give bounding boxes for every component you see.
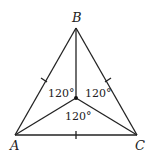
angle-label-apb: 120° [48,87,75,100]
vertex-label-c: C [135,138,145,153]
angle-label-apc: 120° [65,110,92,123]
triangle-diagram: B A C 120° 120° 120° [0,0,152,158]
vertex-label-a: A [9,138,19,153]
interior-point [74,96,78,100]
vertex-label-b: B [71,10,82,25]
angle-label-bpc: 120° [85,87,112,100]
